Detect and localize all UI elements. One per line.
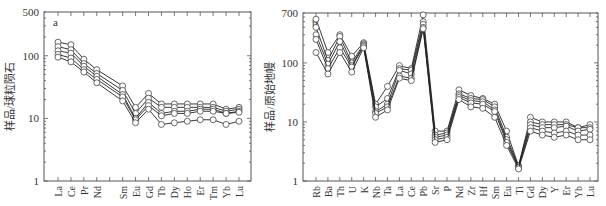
- data-point: [575, 137, 581, 143]
- data-point: [55, 54, 61, 60]
- data-point: [236, 118, 242, 124]
- data-point: [492, 109, 498, 115]
- x-tick-label: Dy: [169, 186, 180, 198]
- x-tick-label: Er: [195, 185, 206, 195]
- panel-label: a: [53, 16, 58, 28]
- x-tick-label: Nd: [92, 186, 103, 198]
- x-tick-label: Yb: [221, 186, 232, 198]
- x-tick-label: Zr: [466, 185, 477, 195]
- data-point: [236, 109, 242, 115]
- data-point: [120, 98, 126, 104]
- x-tick-label: Sm: [490, 186, 501, 200]
- x-tick-label: Eu: [502, 186, 513, 197]
- x-tick-label: U: [347, 185, 358, 193]
- x-tick-label: Eu: [131, 186, 142, 197]
- x-tick-label: Ce: [406, 185, 417, 197]
- x-tick-label: Sr: [430, 185, 441, 195]
- x-tick-label: Nd: [454, 186, 465, 198]
- x-tick-label: Rb: [311, 186, 322, 198]
- data-point: [223, 110, 229, 116]
- data-point: [384, 107, 390, 113]
- data-point: [492, 114, 498, 120]
- data-point: [539, 132, 545, 138]
- data-point: [587, 126, 593, 132]
- y-tick-label: 1: [34, 175, 40, 187]
- y-axis-label: 样品/原始地幔: [263, 62, 276, 131]
- data-point: [551, 134, 557, 140]
- x-tick-label: P: [442, 186, 453, 192]
- y-tick-label: 700: [282, 7, 299, 19]
- data-point: [210, 117, 216, 123]
- x-tick-label: Pb: [418, 186, 429, 197]
- x-tick-label: Lu: [234, 186, 245, 197]
- data-point: [158, 121, 164, 127]
- data-point: [420, 26, 426, 32]
- x-tick-label: Ta: [382, 185, 393, 195]
- data-point: [468, 104, 474, 110]
- data-point: [197, 108, 203, 114]
- data-point: [158, 113, 164, 119]
- x-tick-label: Tm: [208, 186, 219, 200]
- chart-panel-b: 110100700样品/原始地幔bRbBaThUKNbTaLaCePbSrPNd…: [263, 7, 598, 199]
- x-tick-label: Yb: [573, 186, 584, 198]
- data-point: [313, 36, 319, 42]
- series-line: [316, 27, 590, 167]
- data-point: [158, 104, 164, 110]
- data-point: [223, 121, 229, 127]
- data-point: [361, 45, 367, 51]
- data-point: [184, 110, 190, 116]
- y-tick-label: 1: [293, 175, 299, 187]
- data-point: [171, 110, 177, 116]
- x-tick-label: Sm: [118, 186, 129, 200]
- y-tick-label: 10: [28, 112, 40, 124]
- x-tick-label: Hf: [478, 185, 489, 196]
- x-tick-label: La: [53, 185, 64, 196]
- x-tick-label: Ho: [182, 186, 193, 198]
- y-axis-label: 样品/球粒陨石: [3, 62, 16, 131]
- data-point: [325, 71, 331, 77]
- x-tick-label: Lu: [585, 186, 596, 197]
- x-tick-label: Gd: [144, 186, 155, 198]
- y-tick-label: 100: [23, 50, 40, 62]
- series-line: [316, 15, 590, 166]
- y-tick-label: 10: [287, 116, 299, 128]
- data-point: [456, 97, 462, 103]
- data-point: [133, 120, 139, 126]
- data-point: [68, 59, 74, 65]
- x-tick-label: La: [394, 185, 405, 196]
- x-tick-label: Ba: [323, 185, 334, 197]
- data-point: [420, 12, 426, 18]
- x-tick-label: Tb: [156, 186, 167, 197]
- data-point: [516, 166, 522, 172]
- data-point: [432, 139, 438, 145]
- x-tick-label: Er: [561, 185, 572, 195]
- chart-canvas: 110100500样品/球粒陨石aLaCePrNdSmEuGdTbDyHoErT…: [0, 0, 606, 206]
- y-tick-label: 100: [282, 57, 299, 69]
- data-point: [563, 132, 569, 138]
- data-point: [396, 75, 402, 81]
- y-tick-label: 500: [23, 6, 40, 18]
- x-tick-label: Ti: [514, 186, 525, 195]
- x-tick-label: Th: [335, 186, 346, 197]
- data-point: [210, 108, 216, 114]
- x-tick-label: K: [359, 185, 370, 193]
- data-point: [349, 69, 355, 75]
- x-tick-label: Dy: [537, 186, 548, 198]
- data-point: [337, 50, 343, 56]
- data-point: [184, 118, 190, 124]
- data-point: [313, 16, 319, 22]
- data-point: [587, 137, 593, 143]
- data-point: [408, 78, 414, 84]
- x-tick-label: Gd: [525, 186, 536, 198]
- series-line: [316, 24, 590, 167]
- data-point: [81, 69, 87, 75]
- series-line: [316, 22, 590, 166]
- data-point: [504, 142, 510, 148]
- data-point: [313, 24, 319, 30]
- data-point: [444, 137, 450, 143]
- plot-frame: [303, 13, 598, 181]
- data-point: [384, 83, 390, 89]
- data-point: [527, 128, 533, 134]
- data-point: [313, 50, 319, 56]
- x-tick-label: Nb: [371, 186, 382, 198]
